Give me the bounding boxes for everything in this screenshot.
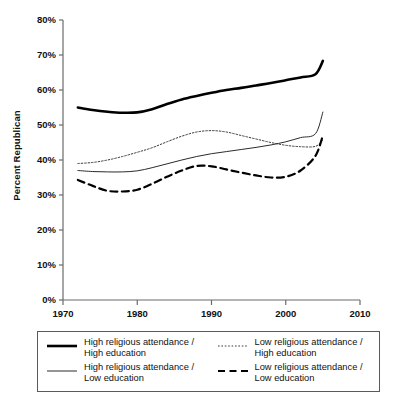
data-series-line (78, 112, 323, 172)
y-tick-label: 20% (16, 224, 56, 235)
y-tick-label: 10% (16, 259, 56, 270)
legend-line-swatch-icon (217, 362, 249, 380)
x-axis-ticks (63, 300, 360, 305)
chart-legend: High religious attendance / High educati… (37, 331, 380, 392)
legend-item-label: Low religious attendance / High educatio… (255, 337, 363, 359)
legend-line-swatch-icon (46, 337, 78, 355)
chart-figure: Percent Republican 0%10%20%30%40%50%60%7… (0, 0, 397, 417)
x-tick-label: 1990 (182, 308, 242, 319)
data-series-group (78, 61, 323, 192)
legend-item[interactable]: Low religious attendance / Low education (209, 362, 380, 387)
x-tick-label: 2010 (330, 308, 390, 319)
legend-line-swatch-icon (46, 362, 78, 380)
legend-item-label: High religious attendance / Low educatio… (84, 362, 194, 384)
legend-item-label: High religious attendance / High educati… (84, 337, 194, 359)
legend-item[interactable]: Low religious attendance / High educatio… (209, 337, 380, 362)
x-tick-label: 1970 (33, 308, 93, 319)
legend-item[interactable]: High religious attendance / Low educatio… (38, 362, 209, 387)
data-series-line (78, 131, 323, 164)
axes (63, 20, 360, 300)
y-tick-label: 60% (16, 84, 56, 95)
data-series-line (78, 136, 323, 192)
legend-item[interactable]: High religious attendance / High educati… (38, 337, 209, 362)
y-tick-label: 30% (16, 189, 56, 200)
legend-item-label: Low religious attendance / Low education (255, 362, 363, 384)
x-tick-label: 1980 (107, 308, 167, 319)
x-tick-label: 2000 (256, 308, 316, 319)
legend-line-swatch-icon (217, 337, 249, 355)
y-tick-label: 70% (16, 49, 56, 60)
y-tick-label: 40% (16, 154, 56, 165)
y-tick-label: 50% (16, 119, 56, 130)
data-series-line (78, 61, 323, 113)
y-tick-label: 80% (16, 14, 56, 25)
y-tick-label: 0% (16, 294, 56, 305)
